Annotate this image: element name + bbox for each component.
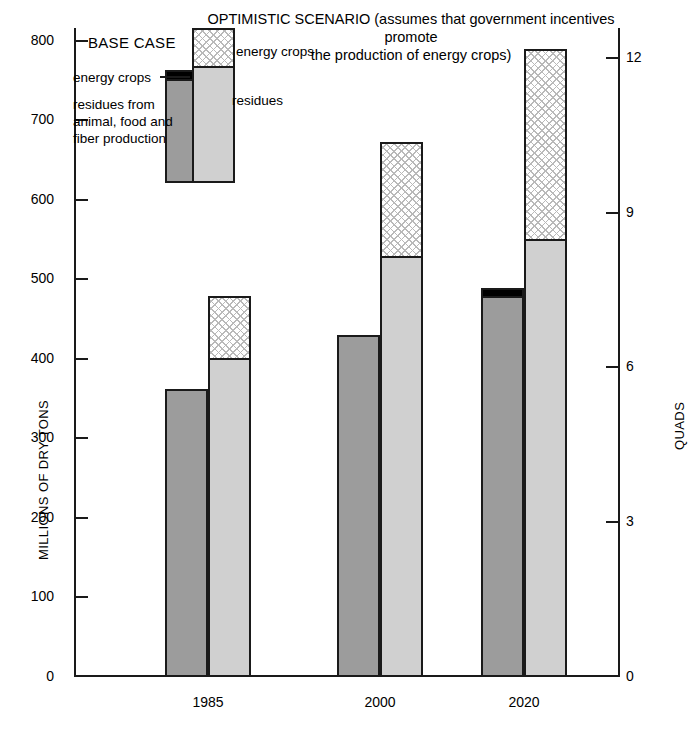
bar-2000-optimistic-energy-crops: [380, 142, 423, 258]
bar-2020-base-energy-crops: [481, 288, 524, 298]
y-tick-right-12: [606, 57, 618, 59]
legend-leader-line: [160, 76, 190, 78]
y-tick-left-800: [76, 40, 88, 42]
y-label-right-9: 9: [626, 205, 634, 219]
y-label-left-500: 500: [31, 271, 54, 285]
y-axis-right-line: [618, 28, 620, 677]
y-label-left-100: 100: [31, 589, 54, 603]
y-label-right-3: 3: [626, 514, 634, 528]
y-axis-left-title: MILLIONS OF DRY TONS: [36, 400, 51, 560]
y-tick-left-300: [76, 437, 88, 439]
y-tick-left-400: [76, 358, 88, 360]
y-label-left-0: 0: [46, 669, 54, 683]
bar-2020-optimistic-residues: [524, 239, 567, 677]
y-label-left-600: 600: [31, 192, 54, 206]
y-axis-right-title: QUADS: [672, 402, 687, 450]
chart-canvas: OPTIMISTIC SCENARIO (assumes that govern…: [0, 0, 694, 729]
bar-1985-base-residues: [165, 389, 208, 677]
chart-title-line-1: OPTIMISTIC SCENARIO (assumes that govern…: [208, 11, 615, 45]
y-label-right-12: 12: [626, 50, 642, 64]
x-label-1985: 1985: [153, 694, 263, 710]
bar-2000-base-residues: [337, 335, 380, 677]
y-tick-left-500: [76, 278, 88, 280]
bar-2000-optimistic-residues: [380, 256, 423, 677]
y-tick-left-600: [76, 199, 88, 201]
bar-2020-base-residues: [481, 296, 524, 677]
bar-1985-optimistic-energy-crops: [208, 296, 251, 360]
legend-label-base-energy-crops: energy crops: [73, 69, 151, 86]
y-label-left-700: 700: [31, 112, 54, 126]
legend-label-base-residues: residues from animal, food and fiber pro…: [73, 96, 173, 147]
y-label-right-6: 6: [626, 359, 634, 373]
y-tick-right-6: [606, 366, 618, 368]
x-label-2000: 2000: [325, 694, 435, 710]
x-label-2020: 2020: [469, 694, 579, 710]
y-tick-left-100: [76, 596, 88, 598]
y-label-left-800: 800: [31, 33, 54, 47]
y-tick-right-9: [606, 212, 618, 214]
y-tick-left-200: [76, 517, 88, 519]
bar-1985-optimistic-residues: [208, 358, 251, 677]
legend-swatch-optimistic-energy-crops: [192, 28, 235, 68]
legend-label-optimistic-energy-crops: energy crops: [236, 43, 314, 60]
y-label-left-400: 400: [31, 351, 54, 365]
y-tick-right-3: [606, 521, 618, 523]
legend-label-optimistic-residues: residues: [232, 92, 283, 109]
legend-swatch-optimistic-residues: [192, 66, 235, 183]
bar-2020-optimistic-energy-crops: [524, 49, 567, 241]
legend-label-base-case: BASE CASE: [88, 34, 176, 51]
y-label-right-0: 0: [626, 669, 634, 683]
